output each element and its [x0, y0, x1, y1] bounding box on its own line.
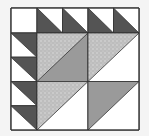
- quilt-block-diagram: [0, 0, 149, 136]
- corner-square: [11, 8, 37, 33]
- top-triangle-row: [37, 8, 139, 33]
- center-squares: [37, 33, 139, 130]
- left-triangle-column: [11, 33, 37, 130]
- quilt-block: [11, 8, 139, 130]
